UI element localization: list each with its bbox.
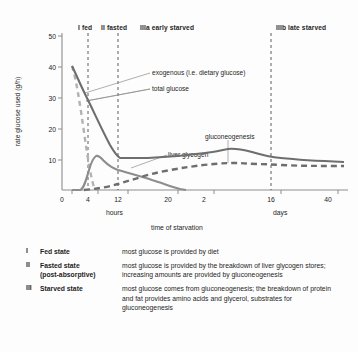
- key-row-i: I Fed state most glucose is provided by …: [26, 247, 338, 256]
- key-term-i: Fed state: [40, 247, 122, 256]
- series-liver-glycogen-line: [72, 156, 186, 190]
- series-total-glucose-line: [72, 66, 344, 162]
- figure-glucose-starvation: I fed II fasted IIIa early starved IIIb …: [0, 0, 358, 352]
- key-numeral-iii: III: [26, 284, 40, 291]
- phase-divider-lines: [88, 33, 271, 190]
- key-row-iii: III Starved state most glucose comes fro…: [26, 284, 338, 312]
- x-tick-marks: [72, 190, 338, 194]
- key-term-i-line1: Fed state: [40, 248, 70, 255]
- leader-exogenous: [85, 73, 150, 93]
- series-exogenous-line: [72, 66, 97, 190]
- key-numeral-i: I: [26, 247, 40, 254]
- key-desc-iii: most glucose comes from gluconeogenesis;…: [122, 284, 338, 312]
- key-term-ii-line2: (post-absorptive): [40, 270, 122, 279]
- key-term-iii-line1: Starved state: [40, 285, 83, 292]
- chart-canvas: [0, 0, 358, 240]
- key-term-ii: Fasted state (post-absorptive): [40, 261, 122, 280]
- key-numeral-ii: II: [26, 261, 40, 268]
- state-key-table: I Fed state most glucose is provided by …: [26, 247, 338, 317]
- key-term-iii: Starved state: [40, 284, 122, 293]
- series-gluconeogenesis-line: [84, 163, 344, 190]
- key-row-ii: II Fasted state (post-absorptive) most g…: [26, 261, 338, 280]
- y-tick-marks: [58, 36, 62, 160]
- key-desc-i: most glucose is provided by diet: [122, 247, 338, 256]
- key-term-ii-line1: Fasted state: [40, 262, 80, 269]
- key-desc-ii: most glucose is provided by the breakdow…: [122, 261, 338, 280]
- chart-plot-area: I fed II fasted IIIa early starved IIIb …: [0, 0, 358, 240]
